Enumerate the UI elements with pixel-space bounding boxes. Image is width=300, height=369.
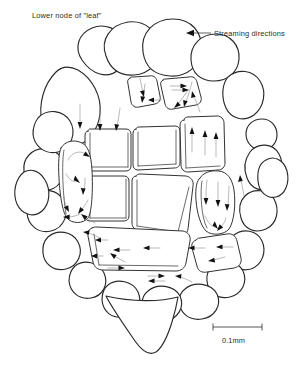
outer-cell bbox=[179, 284, 219, 319]
inner-cell bbox=[133, 126, 180, 170]
figure-root: Lower node of "leaf" Streaming direction… bbox=[0, 0, 300, 369]
node-label: Lower node of "leaf" bbox=[32, 11, 102, 20]
inner-cell bbox=[161, 77, 202, 110]
outer-cell bbox=[223, 71, 264, 118]
outer-cell-tip bbox=[106, 296, 178, 353]
inner-cell bbox=[88, 227, 190, 271]
streaming-label: Streaming directions bbox=[214, 29, 285, 38]
outer-cell bbox=[258, 158, 288, 197]
inner-cell bbox=[192, 234, 241, 272]
scale-label: 0.1mm bbox=[222, 336, 245, 345]
outer-cell bbox=[43, 232, 81, 270]
scale-bar-icon bbox=[213, 324, 262, 331]
inner-cell bbox=[180, 116, 225, 172]
cell-diagram: Lower node of "leaf" Streaming direction… bbox=[0, 0, 300, 369]
